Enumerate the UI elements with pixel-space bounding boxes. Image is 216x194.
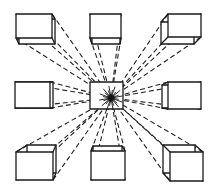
box-depth-edge	[163, 173, 170, 181]
box-front-face	[91, 151, 125, 180]
box-front-face	[16, 14, 52, 38]
box-middle-left	[15, 82, 53, 108]
box-front-face	[168, 14, 201, 37]
box-middle-right	[162, 82, 201, 109]
perspective-drawing-canvas	[0, 0, 216, 194]
box-bottom-center	[91, 146, 125, 180]
box-front-face	[170, 152, 203, 181]
box-front-face	[16, 152, 53, 180]
box-bottom-left	[16, 145, 56, 180]
box-depth-edge	[16, 145, 27, 152]
box-depth-edge	[161, 14, 168, 22]
box-bottom-right	[163, 145, 203, 181]
box-depth-edge	[195, 145, 203, 152]
box-top-right	[161, 14, 201, 44]
box-front-face	[15, 82, 50, 108]
box-top-left	[16, 14, 55, 44]
box-front-face	[168, 82, 201, 109]
box-front-face	[90, 14, 121, 38]
box-top-center	[90, 14, 121, 44]
box-depth-edge	[194, 37, 201, 44]
